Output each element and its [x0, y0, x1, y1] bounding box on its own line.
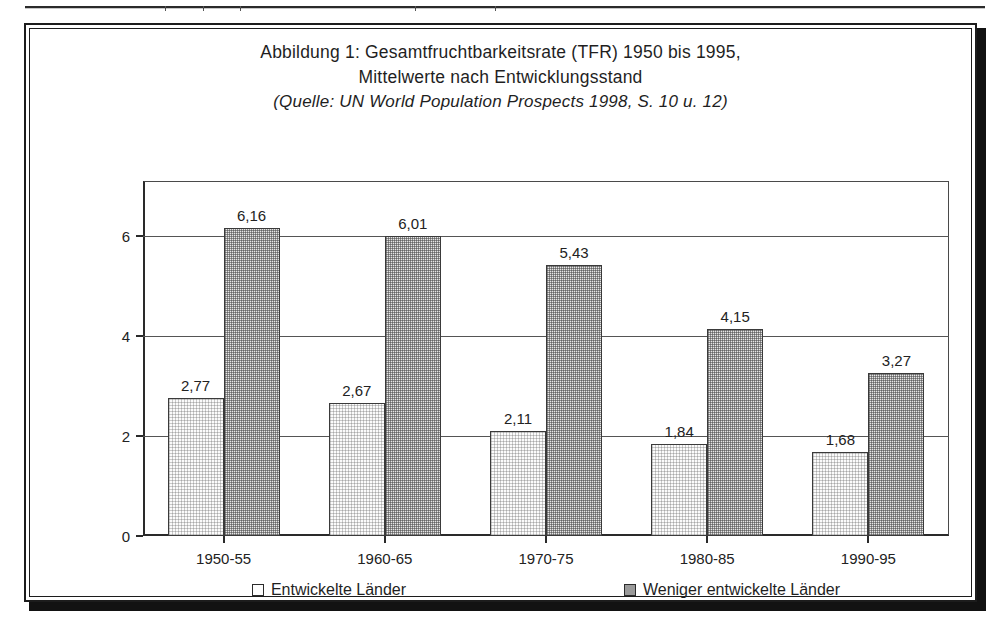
bar-value-label: 1,84 — [665, 423, 694, 440]
bar-value-label: 2,11 — [504, 410, 532, 427]
x-axis-tick-mark — [384, 536, 386, 543]
legend-swatch-icon — [624, 584, 636, 596]
figure-title-line-1: Abbildung 1: Gesamtfruchtbarkeitsrate (T… — [30, 40, 971, 65]
y-axis-tick-mark — [136, 435, 143, 437]
x-axis-tick-label: 1980-85 — [680, 550, 735, 567]
chart-legend: Entwickelte LänderWeniger entwickelte Lä… — [143, 581, 949, 599]
bar-value-label: 4,15 — [721, 308, 750, 325]
y-axis-tick-mark — [136, 535, 143, 537]
bar-1970-75-series-1: 2,11 — [490, 431, 546, 537]
legend-item-1[interactable]: Entwickelte Länder — [252, 581, 406, 599]
bar-1950-55-series-1: 2,77 — [168, 398, 224, 537]
bar-value-label: 6,01 — [398, 215, 427, 232]
legend-label: Weniger entwickelte Länder — [643, 581, 840, 599]
x-axis-tick-mark — [706, 536, 708, 543]
legend-item-2[interactable]: Weniger entwickelte Länder — [624, 581, 840, 599]
y-axis-tick-label: 2 — [122, 428, 130, 445]
bar-1980-85-series-2: 4,15 — [707, 329, 763, 537]
bar-value-label: 6,16 — [237, 207, 266, 224]
y-axis-tick-label: 0 — [122, 528, 130, 545]
bar-1950-55-series-2: 6,16 — [224, 228, 280, 536]
bar-value-label: 3,27 — [882, 352, 911, 369]
x-axis-tick-label: 1950-55 — [196, 550, 251, 567]
bar-1960-65-series-2: 6,01 — [385, 236, 441, 537]
x-axis-tick-label: 1960-65 — [357, 550, 412, 567]
y-axis-tick-mark — [136, 235, 143, 237]
x-axis-tick-mark — [867, 536, 869, 543]
figure-source-line: (Quelle: UN World Population Prospects 1… — [30, 90, 971, 114]
x-axis-tick-mark — [223, 536, 225, 543]
bar-1990-95-series-2: 3,27 — [868, 373, 924, 537]
x-axis-tick-label: 1990-95 — [841, 550, 896, 567]
legend-swatch-icon — [252, 584, 264, 596]
y-axis-tick-label: 6 — [122, 228, 130, 245]
bar-1960-65-series-1: 2,67 — [329, 403, 385, 537]
figure-panel: Abbildung 1: Gesamtfruchtbarkeitsrate (T… — [29, 28, 972, 597]
bar-value-label: 5,43 — [559, 244, 588, 261]
legend-label: Entwickelte Länder — [271, 581, 406, 599]
bar-1970-75-series-2: 5,43 — [546, 265, 602, 537]
bar-value-label: 2,77 — [181, 377, 210, 394]
bar-1990-95-series-1: 1,68 — [812, 452, 868, 536]
scan-rule-artifact — [25, 6, 985, 8]
x-axis-tick-label: 1970-75 — [518, 550, 573, 567]
chart-plot-area: 0246 2,776,162,676,012,115,431,844,151,6… — [143, 181, 949, 536]
bar-value-label: 1,68 — [826, 431, 855, 448]
bar-1980-85-series-1: 1,84 — [651, 444, 707, 536]
figure-title-line-2: Mittelwerte nach Entwicklungsstand — [30, 65, 971, 90]
y-axis-tick-label: 4 — [122, 328, 130, 345]
figure-title: Abbildung 1: Gesamtfruchtbarkeitsrate (T… — [30, 40, 971, 114]
bar-value-label: 2,67 — [342, 382, 371, 399]
x-axis-tick-mark — [545, 536, 547, 543]
y-axis-tick-mark — [136, 335, 143, 337]
